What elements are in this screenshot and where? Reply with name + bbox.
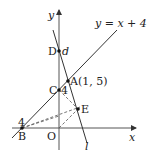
- origin-label: O: [47, 130, 56, 143]
- point-c-label: C: [49, 84, 57, 97]
- point-d-label: D: [48, 45, 57, 58]
- point-e-label: E: [81, 103, 89, 116]
- point-b-value: 4: [18, 116, 25, 129]
- x-axis-label: x: [129, 131, 136, 144]
- coordinate-diagram: y x O y = x + 4 l D d A(1, 5) C 4 E 4 B: [0, 0, 148, 156]
- point-e: [76, 107, 80, 111]
- point-b-label: B: [18, 130, 26, 143]
- line-l-label: l: [85, 140, 89, 153]
- y-axis-label: y: [47, 9, 55, 22]
- point-d-value: d: [62, 45, 69, 58]
- point-c-value: 4: [61, 84, 68, 97]
- point-d: [57, 49, 61, 53]
- dashed-o-e: [59, 109, 78, 128]
- line1-label: y = x + 4: [94, 17, 147, 30]
- dashed-b-e: [22, 107, 80, 128]
- point-a-label: A(1, 5): [69, 75, 108, 88]
